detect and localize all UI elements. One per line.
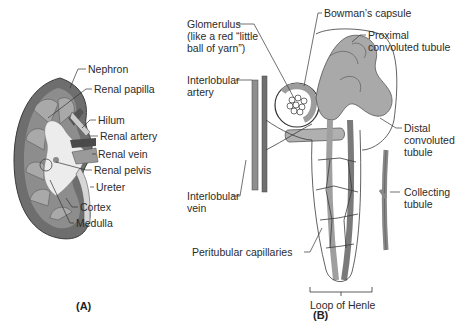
label-interlobular-vein-line2: vein bbox=[187, 202, 206, 214]
label-nephron: Nephron bbox=[88, 63, 128, 75]
kidney-illustration bbox=[14, 78, 98, 239]
loop-of-henle-bracket bbox=[310, 287, 372, 296]
label-interlobular-vein: Interlobular bbox=[187, 190, 240, 202]
label-renal-vein: Renal vein bbox=[98, 148, 148, 160]
label-interlobular-artery-line2: artery bbox=[187, 86, 214, 98]
caption-a: (A) bbox=[76, 300, 91, 312]
label-proximal: Proximal bbox=[368, 29, 409, 41]
label-proximal-line2: convoluted tubule bbox=[368, 41, 450, 53]
label-bowmans-capsule: Bowman’s capsule bbox=[324, 7, 411, 19]
label-renal-papilla: Renal papilla bbox=[94, 83, 155, 95]
label-distal: Distal bbox=[404, 122, 430, 134]
label-cortex: Cortex bbox=[80, 201, 111, 213]
label-hilum: Hilum bbox=[98, 114, 125, 126]
label-renal-pelvis: Renal pelvis bbox=[94, 164, 151, 176]
label-interlobular-artery: Interlobular bbox=[187, 74, 240, 86]
label-distal-line3: tubule bbox=[404, 146, 433, 158]
label-ureter: Ureter bbox=[96, 181, 125, 193]
caption-b: (B) bbox=[313, 309, 328, 321]
label-collecting: Collecting bbox=[404, 186, 450, 198]
label-glomerulus-line3: ball of yarn”) bbox=[187, 42, 245, 54]
label-glomerulus-line2: (like a red “little bbox=[187, 30, 258, 42]
label-collecting-line2: tubule bbox=[404, 198, 433, 210]
label-medulla: Medulla bbox=[76, 217, 113, 229]
label-glomerulus: Glomerulus bbox=[187, 18, 241, 30]
label-distal-line2: convoluted bbox=[404, 134, 455, 146]
label-peritubular-capillaries: Peritubular capillaries bbox=[192, 246, 292, 258]
label-renal-artery: Renal artery bbox=[100, 130, 157, 142]
